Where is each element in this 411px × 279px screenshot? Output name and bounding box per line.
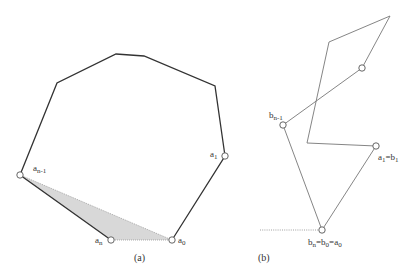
vertex-a-n bbox=[108, 237, 114, 243]
convex-polygon-chain bbox=[20, 54, 225, 240]
dotted-diagonal bbox=[20, 175, 172, 240]
figure-canvas: an-1 a1 an a0 (a) bn-1 a1=b1 bn=b0=a0 (b… bbox=[0, 0, 411, 279]
caption-a: (a) bbox=[134, 252, 145, 264]
label-a-n-minus-1: an-1 bbox=[33, 163, 47, 175]
vertex-a-0 bbox=[169, 237, 175, 243]
panel-a: an-1 a1 an a0 (a) bbox=[17, 54, 228, 264]
panel-b: bn-1 a1=b1 bn=b0=a0 (b) bbox=[258, 16, 399, 264]
vertex-a-1 bbox=[222, 153, 228, 159]
label-bn-eq-b0-eq-a0: bn=b0=a0 bbox=[308, 237, 342, 249]
vertex-b-n-minus-1 bbox=[280, 122, 286, 128]
vertex-b-1 bbox=[373, 143, 379, 149]
vertex-a-n-minus-1 bbox=[17, 172, 23, 178]
label-a-1: a1 bbox=[210, 149, 218, 161]
vertex-b-n bbox=[319, 227, 325, 233]
label-b-n-minus-1: bn-1 bbox=[269, 110, 283, 122]
label-a-0: a0 bbox=[178, 235, 186, 247]
label-a1-eq-b1: a1=b1 bbox=[378, 152, 399, 164]
vertex-mid bbox=[359, 65, 365, 71]
caption-b: (b) bbox=[258, 252, 270, 264]
polygonal-path bbox=[283, 16, 390, 230]
label-a-n: an bbox=[95, 235, 103, 247]
